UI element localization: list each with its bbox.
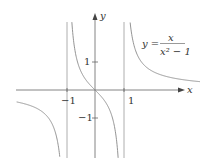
svg-text:x: x: [168, 32, 174, 43]
graph: x y −1 1 1 −1 y = x x² − 1: [0, 0, 200, 166]
x-axis-label: x: [187, 84, 193, 95]
x-axis-arrow-icon: [178, 88, 185, 93]
y-tick-minus-1: −1: [78, 112, 93, 123]
svg-text:y =: y =: [141, 38, 159, 49]
y-axis-arrow-icon: [93, 13, 98, 20]
y-axis-label: y: [99, 10, 106, 21]
x-tick-minus-1: −1: [61, 95, 76, 106]
svg-text:x² − 1: x² − 1: [160, 46, 191, 57]
x-tick-1: 1: [128, 95, 134, 106]
function-label: y = x x² − 1: [141, 32, 191, 57]
y-tick-1: 1: [84, 56, 90, 67]
